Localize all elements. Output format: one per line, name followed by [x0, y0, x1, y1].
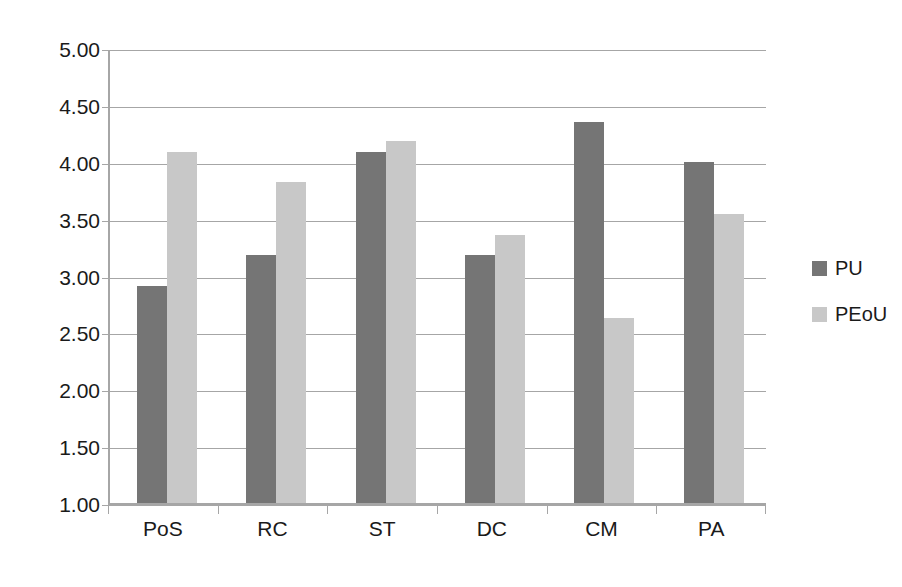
y-axis-tick-label: 3.50 [8, 210, 100, 231]
bar-group [219, 50, 328, 503]
y-axis-tick [102, 221, 110, 222]
y-axis-tick-label: 5.00 [8, 39, 100, 60]
y-axis-tick-label: 2.00 [8, 380, 100, 401]
legend-label: PEoU [835, 304, 887, 324]
x-axis-tick-label: CM [547, 516, 657, 542]
bar-chart: 5.00 4.50 4.00 3.50 3.00 2.50 2.00 1.50 … [0, 0, 902, 587]
x-axis-tick [437, 505, 438, 514]
bar-pu-dc [465, 255, 495, 503]
bar-groups [110, 50, 766, 503]
bar-peou-dc [495, 235, 525, 503]
legend-label: PU [835, 258, 863, 278]
legend-swatch-icon [812, 261, 827, 276]
y-axis-tick-label: 2.50 [8, 323, 100, 344]
y-axis-tick [102, 391, 110, 392]
plot-area [108, 50, 766, 505]
legend-swatch-icon [812, 307, 827, 322]
x-axis-tick-label: RC [218, 516, 328, 542]
bar-pu-st [356, 152, 386, 503]
y-axis-tick [102, 278, 110, 279]
x-axis-tick [218, 505, 219, 514]
bar-peou-st [386, 141, 416, 503]
x-axis-tick-label: PA [656, 516, 766, 542]
bar-peou-pos [167, 152, 197, 503]
bar-pu-cm [574, 122, 604, 503]
y-axis-tick-label: 4.00 [8, 153, 100, 174]
x-axis-tick-label: ST [327, 516, 437, 542]
bar-group [329, 50, 438, 503]
y-axis-labels: 5.00 4.50 4.00 3.50 3.00 2.50 2.00 1.50 … [0, 50, 100, 505]
bar-pu-pos [137, 286, 167, 503]
bar-peou-rc [276, 182, 306, 503]
bar-group [547, 50, 656, 503]
x-axis-tick-label: PoS [108, 516, 218, 542]
chart-legend: PU PEoU [812, 258, 902, 350]
x-axis-tick [656, 505, 657, 514]
y-axis-tick-label: 3.00 [8, 267, 100, 288]
bar-group [438, 50, 547, 503]
y-axis-tick [102, 50, 110, 51]
x-axis-tick [765, 505, 766, 514]
bar-peou-pa [714, 214, 744, 503]
y-axis-tick [102, 334, 110, 335]
y-axis-tick-label: 1.50 [8, 437, 100, 458]
x-axis-tick [547, 505, 548, 514]
legend-item-peou: PEoU [812, 304, 902, 324]
x-axis-labels: PoS RC ST DC CM PA [108, 516, 766, 542]
bar-peou-cm [604, 318, 634, 503]
y-axis-tick-label: 1.00 [8, 494, 100, 515]
x-axis-tick-label: DC [437, 516, 547, 542]
x-axis-tick [108, 505, 109, 514]
bar-group [657, 50, 766, 503]
y-axis-tick [102, 448, 110, 449]
legend-item-pu: PU [812, 258, 902, 278]
y-axis-tick [102, 164, 110, 165]
x-axis-tick [327, 505, 328, 514]
y-axis-tick-label: 4.50 [8, 96, 100, 117]
y-axis-tick [102, 107, 110, 108]
bar-pu-pa [684, 162, 714, 503]
x-axis-ticks [108, 505, 766, 514]
bar-pu-rc [246, 255, 276, 503]
bar-group [110, 50, 219, 503]
